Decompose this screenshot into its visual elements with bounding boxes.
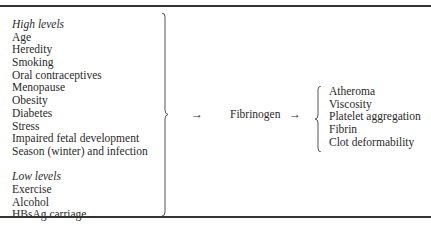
list-item: Stress [12,120,148,133]
list-item: Diabetes [12,107,148,120]
list-item: HBsAg carriage [12,208,148,221]
list-item: Platelet aggregation [329,110,421,123]
list-item: Alcohol [12,196,148,209]
left-brace-icon [314,86,322,152]
list-item: Fibrin [329,123,421,136]
list-item: Smoking [12,56,148,69]
list-item: Obesity [12,94,148,107]
list-item: Oral contraceptives [12,69,148,82]
list-item: Viscosity [329,98,421,111]
list-item: Heredity [12,43,148,56]
list-item: Atheroma [329,85,421,98]
list-item: Clot deformability [329,136,421,149]
fibrinogen-label: Fibrinogen [230,108,280,120]
determinants-list: High levels Age Heredity Smoking Oral co… [12,18,148,221]
high-levels-heading: High levels [12,18,148,31]
list-item: Impaired fetal development [12,132,148,145]
list-item: Season (winter) and infection [12,145,148,158]
list-item: Exercise [12,183,148,196]
arrow-icon: → [289,107,301,122]
arrow-icon: → [191,107,203,122]
top-rule [0,5,431,7]
list-item: Age [12,31,148,44]
list-item: Menopause [12,81,148,94]
bottom-rule [0,216,431,218]
right-brace-icon [161,13,169,216]
effects-list: Atheroma Viscosity Platelet aggregation … [329,85,421,148]
low-levels-heading: Low levels [12,170,148,183]
